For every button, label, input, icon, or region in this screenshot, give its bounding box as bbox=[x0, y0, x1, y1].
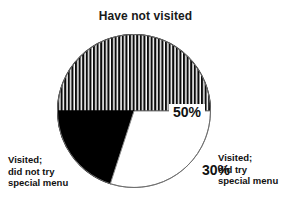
slice-value-visited-did-not-try: 20% bbox=[142, 163, 170, 178]
category-label-line: special menu bbox=[218, 175, 278, 187]
slice-value-have-not-visited: 50% bbox=[169, 104, 205, 122]
category-label-line: Visited; bbox=[218, 152, 278, 164]
pie-graphic: 50% 20% 30% bbox=[57, 34, 211, 188]
category-label-line: special menu bbox=[8, 177, 68, 189]
category-label-line: did try bbox=[218, 164, 278, 176]
chart-title: Have not visited bbox=[0, 9, 291, 23]
pie-slice-have-not-visited bbox=[58, 35, 211, 112]
pie-chart-figure: Have not visited 50% 20% 30% Visite bbox=[0, 0, 291, 206]
category-label-visited-did-try: Visited; did try special menu bbox=[218, 152, 278, 187]
category-label-line: did not try bbox=[8, 166, 68, 178]
category-label-line: Visited; bbox=[8, 154, 68, 166]
category-label-visited-did-not-try: Visited; did not try special menu bbox=[8, 154, 68, 189]
